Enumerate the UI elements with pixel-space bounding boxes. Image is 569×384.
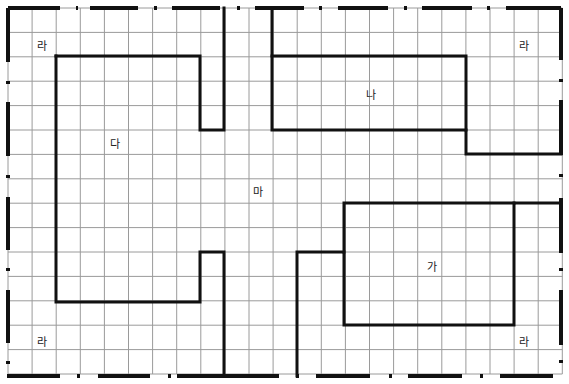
label-ra-bottom-left: 라 — [37, 333, 47, 349]
wall-ga-block — [297, 203, 561, 376]
wall-na-block — [272, 8, 561, 154]
wall-ga-top — [344, 203, 514, 252]
label-na: 나 — [366, 86, 376, 102]
label-ra-bottom-right: 라 — [519, 333, 529, 349]
label-ga: 가 — [427, 258, 437, 274]
floor-plan-diagram: 라 라 라 라 나 다 마 가 — [0, 0, 569, 384]
wall-da-block — [56, 8, 224, 130]
label-ra-top-right: 라 — [519, 37, 529, 53]
label-da: 다 — [110, 135, 120, 151]
walls — [0, 0, 569, 384]
label-ra-top-left: 라 — [37, 37, 47, 53]
label-ma: 마 — [253, 183, 263, 199]
